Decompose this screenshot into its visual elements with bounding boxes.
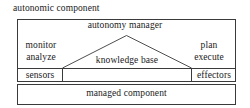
knowledge-base-label: knowledge base xyxy=(62,55,192,67)
plan-label: plan xyxy=(188,40,230,52)
monitor-label: monitor xyxy=(20,40,62,52)
plan-execute-label: plan execute xyxy=(188,40,230,63)
diagram-caption: autonomic component xyxy=(13,2,100,14)
autonomy-manager-label: autonomy manager xyxy=(0,20,250,32)
analyze-label: analyze xyxy=(20,52,62,64)
managed-component-label: managed component xyxy=(17,88,236,100)
sensors-label: sensors xyxy=(18,70,62,82)
autonomic-component-diagram: autonomic component autonomy manager mon… xyxy=(0,0,250,108)
monitor-analyze-label: monitor analyze xyxy=(20,40,62,63)
execute-label: execute xyxy=(188,52,230,64)
effectors-label: effectors xyxy=(192,70,236,82)
